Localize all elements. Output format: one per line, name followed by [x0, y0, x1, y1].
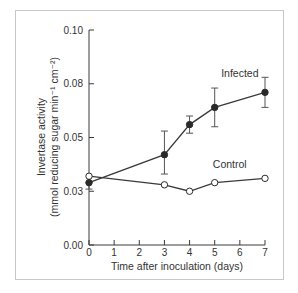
data-point — [161, 182, 167, 188]
series-label-infected: Infected — [221, 67, 259, 79]
y-tick-label: 0.03 — [64, 186, 84, 197]
x-tick-label: 0 — [86, 247, 92, 258]
x-tick-label: 4 — [187, 247, 193, 258]
x-tick-label: 2 — [137, 247, 143, 258]
y-tick-label: 0.00 — [64, 240, 84, 251]
x-tick-label: 1 — [111, 247, 117, 258]
data-point — [212, 179, 218, 185]
data-point — [186, 188, 192, 194]
line-chart: 0.000.030.050.080.10 01234567 ControlInf… — [0, 0, 298, 293]
y-tick-label: 0.08 — [64, 78, 84, 89]
data-point — [161, 152, 167, 158]
x-axis-title: Time after inoculation (days) — [111, 260, 243, 272]
data-point — [186, 121, 192, 127]
series-infected: Infected — [86, 67, 269, 189]
y-axis-title-line2: (mmol reducing sugar min⁻¹ cm⁻²) — [48, 57, 60, 217]
data-point — [86, 173, 92, 179]
x-tick-label: 5 — [212, 247, 218, 258]
data-point — [262, 89, 268, 95]
x-tick-label: 7 — [262, 247, 268, 258]
y-tick-label: 0.05 — [64, 132, 84, 143]
series-layer: ControlInfected — [86, 67, 269, 194]
x-axis: 01234567 — [86, 240, 268, 258]
data-point — [86, 179, 92, 185]
series-control: Control — [86, 158, 268, 195]
series-label-control: Control — [213, 158, 247, 170]
x-tick-label: 3 — [162, 247, 168, 258]
data-point — [212, 104, 218, 110]
data-point — [262, 175, 268, 181]
y-axis-title-line1: Invertase activity — [35, 97, 47, 176]
y-tick-label: 0.10 — [64, 25, 84, 36]
x-tick-label: 6 — [237, 247, 243, 258]
y-axis: 0.000.030.050.080.10 — [64, 25, 94, 251]
